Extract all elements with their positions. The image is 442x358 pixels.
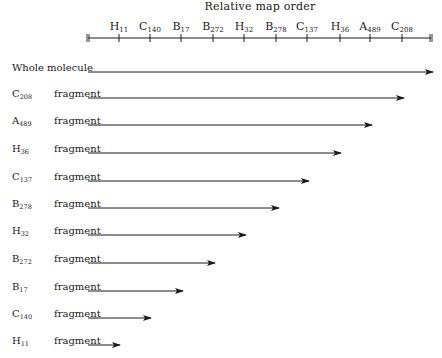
fragment-arrows (88, 72, 433, 345)
map-axis (87, 34, 432, 42)
map-diagram (0, 0, 442, 358)
